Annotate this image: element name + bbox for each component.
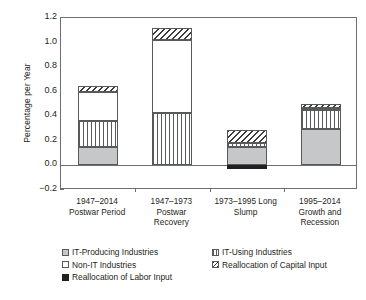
y-axis-tick-label: 0.2	[3, 134, 57, 144]
bar-segment	[227, 143, 267, 147]
legend-swatch-icon	[212, 249, 219, 256]
legend-item-label: IT-Using Industries	[222, 247, 292, 257]
x-axis-category-label-line: Slump	[209, 207, 283, 218]
bar-segment	[152, 40, 192, 112]
legend-item-label: Reallocation of Labor Input	[72, 272, 172, 282]
x-axis-category-label: 1947–1973PostwarRecovery	[134, 196, 208, 228]
legend-item: Non-IT Industries	[62, 260, 136, 270]
x-axis-tick-mark	[284, 188, 285, 192]
bar-segment	[78, 121, 118, 147]
bar-segment	[301, 104, 341, 108]
chart-legend: IT-Producing IndustriesIT-Using Industri…	[56, 247, 356, 291]
y-axis-tick-mark	[60, 189, 64, 190]
legend-item-label: Non-IT Industries	[72, 260, 136, 270]
legend-item: Reallocation of Capital Input	[212, 260, 327, 270]
y-axis-tick-label: −0.2	[3, 183, 57, 193]
x-axis-tick-mark	[135, 188, 136, 192]
y-axis-tick-label: 1.2	[3, 11, 57, 21]
legend-item: Reallocation of Labor Input	[62, 272, 172, 282]
bar-segment	[227, 147, 267, 165]
legend-item: IT-Using Industries	[212, 247, 292, 257]
y-axis-tick-label: 0.8	[3, 60, 57, 70]
y-axis-tick-label: 0.6	[3, 85, 57, 95]
y-axis-tick-label: 1.0	[3, 36, 57, 46]
x-axis-category-label-line: Recession	[283, 217, 357, 228]
x-axis-category-label: 1995–2014Growth andRecession	[283, 196, 357, 228]
legend-swatch-icon	[62, 274, 69, 281]
x-axis-category-label-line: 1995–2014	[283, 196, 357, 207]
bar-segment	[78, 147, 118, 165]
x-axis-category-label: 1973–1995 LongSlump	[209, 196, 283, 217]
bar-column	[78, 18, 118, 190]
legend-item: IT-Producing Industries	[62, 247, 158, 257]
chart-figure: Percentage per Year −0.20.00.20.40.60.81…	[0, 0, 366, 300]
bar-segment	[227, 130, 267, 144]
x-axis-category-label-line: 1947–2014	[60, 196, 134, 207]
legend-item-label: Reallocation of Capital Input	[222, 260, 327, 270]
legend-swatch-icon	[62, 249, 69, 256]
bar-segment	[78, 92, 118, 121]
x-axis-category-label-line: Postwar	[134, 207, 208, 218]
bar-segment	[301, 129, 341, 166]
bar-segment	[301, 108, 341, 110]
bar-column	[152, 18, 192, 190]
x-axis-category-labels: 1947–2014Postwar Period1947–1973PostwarR…	[60, 196, 357, 242]
legend-swatch-icon	[212, 261, 219, 268]
x-axis-category-label-line: 1973–1995 Long	[209, 196, 283, 207]
y-axis-tick-label: 0.0	[3, 158, 57, 168]
bar-segment	[301, 110, 341, 128]
bar-segment	[78, 86, 118, 92]
x-axis-category-label-line: Growth and	[283, 207, 357, 218]
plot-area	[60, 17, 357, 189]
bar-column	[227, 18, 267, 190]
bar-column	[301, 18, 341, 190]
x-axis-category-label-line: 1947–1973	[134, 196, 208, 207]
x-axis-category-label: 1947–2014Postwar Period	[60, 196, 134, 217]
x-axis-category-label-line: Postwar Period	[60, 207, 134, 218]
legend-swatch-icon	[62, 261, 69, 268]
bar-segment	[227, 165, 267, 169]
x-axis-category-label-line: Recovery	[134, 217, 208, 228]
bar-segment	[152, 28, 192, 40]
y-axis-tick-label: 0.4	[3, 109, 57, 119]
legend-item-label: IT-Producing Industries	[72, 247, 158, 257]
x-axis-tick-mark	[210, 188, 211, 192]
bar-segment	[152, 113, 192, 166]
